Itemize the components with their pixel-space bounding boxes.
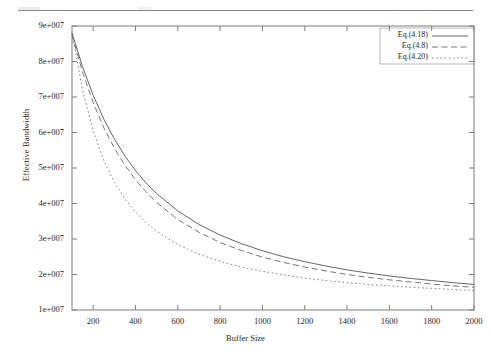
x-tick-label: 400: [115, 316, 155, 326]
x-tick-label: 1000: [242, 316, 282, 326]
legend-entry-label: Eq.(4.20): [356, 52, 428, 61]
series-line-1: [72, 33, 474, 284]
y-tick-label: 5e+007: [12, 162, 64, 172]
x-tick-label: 200: [73, 316, 113, 326]
legend-entry-label: Eq.(4.8): [356, 41, 428, 50]
series-line-3: [72, 33, 474, 290]
x-tick-label: 1200: [285, 316, 325, 326]
y-tick-label: 1e+007: [12, 304, 64, 314]
chart-figure: Effective Bandwidth Buffer Size 1e+0072e…: [0, 0, 491, 354]
y-tick-label: 9e+007: [12, 20, 64, 30]
y-tick-label: 6e+007: [12, 127, 64, 137]
x-tick-label: 1800: [412, 316, 452, 326]
x-tick-label: 800: [200, 316, 240, 326]
x-axis-title: Buffer Size: [0, 333, 491, 343]
plot-frame: [72, 26, 474, 310]
y-tick-label: 2e+007: [12, 269, 64, 279]
y-tick-label: 8e+007: [12, 56, 64, 66]
axis-ticks: [72, 26, 474, 310]
x-tick-label: 1400: [327, 316, 367, 326]
y-tick-label: 3e+007: [12, 233, 64, 243]
x-tick-label: 1600: [369, 316, 409, 326]
legend-entry-label: Eq.(4.18): [356, 30, 428, 39]
x-tick-label: 600: [158, 316, 198, 326]
series-line-2: [72, 35, 474, 287]
data-series-group: [72, 33, 474, 290]
y-tick-label: 7e+007: [12, 91, 64, 101]
y-tick-label: 4e+007: [12, 198, 64, 208]
x-tick-label: 2000: [454, 316, 491, 326]
